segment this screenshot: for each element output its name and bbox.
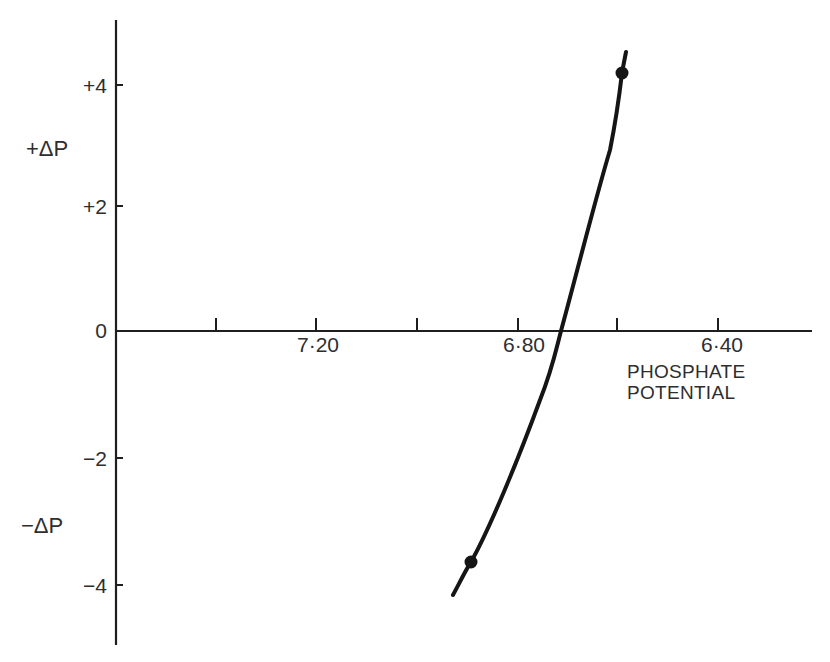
y-tick-label-m4: −4: [47, 575, 107, 596]
y-tick-label-m2: −2: [47, 448, 107, 469]
x-axis-title-line2: POTENTIAL: [627, 382, 745, 403]
x-tick-label-640: 6·40: [682, 334, 762, 355]
data-marker-top: [616, 67, 629, 80]
chart-canvas: [0, 0, 830, 662]
y-tick-label-4: +4: [47, 75, 107, 96]
x-tick-label-720: 7·20: [278, 334, 358, 355]
y-axis-title-positive: +ΔP: [26, 138, 68, 160]
x-axis-title-line1: PHOSPHATE: [627, 361, 745, 382]
data-marker-bottom: [465, 556, 478, 569]
y-tick-label-0: 0: [47, 320, 107, 341]
x-ticks: [216, 318, 718, 331]
data-curve: [453, 52, 626, 595]
y-tick-label-2: +2: [47, 196, 107, 217]
y-axis-title-negative: −ΔP: [21, 515, 63, 537]
x-axis-title: PHOSPHATE POTENTIAL: [627, 361, 745, 403]
x-tick-label-680: 6·80: [484, 334, 564, 355]
